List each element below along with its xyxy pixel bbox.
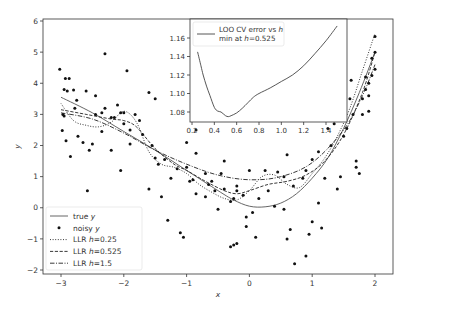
data-point (63, 88, 66, 91)
data-point (65, 139, 68, 142)
x-tick-label: −3 (55, 279, 66, 288)
y-tick-label: 1 (33, 172, 38, 181)
data-point (151, 144, 154, 147)
y-tick-label: 0 (33, 203, 38, 212)
data-point (323, 177, 326, 180)
inset-legend-line1: LOO CV error vs h (219, 25, 284, 34)
data-point (286, 237, 289, 240)
data-point (374, 35, 377, 38)
data-point (195, 192, 198, 195)
data-point (345, 127, 348, 130)
data-point (154, 156, 157, 159)
data-point (242, 194, 245, 197)
data-point (119, 111, 122, 114)
data-point (154, 97, 157, 100)
data-point (75, 99, 78, 102)
data-point (293, 262, 296, 265)
data-point (179, 231, 182, 234)
data-point (129, 128, 132, 131)
data-point (276, 170, 279, 173)
data-point (86, 189, 89, 192)
data-point (94, 113, 97, 116)
data-point (138, 119, 141, 122)
data-point (68, 77, 71, 80)
data-point (245, 225, 248, 228)
inset-x-tick-label: 0.6 (231, 127, 243, 135)
data-point (94, 94, 97, 97)
data-point (185, 166, 188, 169)
inset-legend: LOO CV error vs hmin at h=0.525 (193, 22, 284, 46)
data-point (169, 177, 172, 180)
data-point (176, 167, 179, 170)
inset-y-tick-label: 1.10 (169, 90, 185, 98)
y-tick-label: −2 (27, 266, 38, 275)
data-point (304, 254, 307, 257)
x-tick-label: −1 (181, 279, 192, 288)
data-point (61, 129, 64, 132)
data-point (301, 177, 304, 180)
data-point (188, 180, 191, 183)
data-point (317, 202, 320, 205)
data-point (210, 180, 213, 183)
data-point (122, 111, 125, 114)
data-point (100, 111, 103, 114)
data-point (364, 76, 367, 79)
inset-y-tick-label: 1.08 (169, 109, 185, 117)
data-point (217, 208, 220, 211)
inset-x-tick-label: 1.0 (276, 127, 287, 135)
data-point (195, 152, 198, 155)
data-point (355, 166, 358, 169)
legend-entry: LLR h=0.25 (73, 235, 117, 244)
x-tick-label: 0 (247, 279, 252, 288)
main-legend: true ynoisy yLLR h=0.25LLR h=0.525LLR h=… (46, 207, 142, 270)
inset-axes: 0.20.40.60.81.01.21.41.081.101.121.141.1… (169, 19, 347, 135)
data-point (85, 90, 88, 93)
data-point (125, 69, 128, 72)
data-point (129, 142, 132, 145)
figure: −3−2−1012−2−10123456xytrue ynoisy yLLR h… (0, 0, 450, 310)
inset-x-tick-label: 1.2 (298, 127, 309, 135)
inset-x-tick-label: 0.2 (186, 127, 197, 135)
y-tick-label: 3 (33, 110, 38, 119)
data-point (267, 189, 270, 192)
data-point (213, 189, 216, 192)
data-point (282, 208, 285, 211)
data-point (58, 68, 61, 71)
data-point (235, 242, 238, 245)
data-point (367, 82, 370, 85)
data-point (81, 141, 84, 144)
inset-y-tick-label: 1.12 (169, 72, 185, 80)
data-point (100, 130, 103, 133)
data-point (182, 236, 185, 239)
data-point (163, 158, 166, 161)
data-point (311, 158, 314, 161)
data-point (374, 68, 377, 71)
data-point (141, 133, 144, 136)
data-point (374, 51, 377, 54)
data-point (286, 153, 289, 156)
data-point (317, 150, 320, 153)
data-point (119, 169, 122, 172)
data-point (264, 169, 267, 172)
data-point (73, 107, 76, 110)
data-point (232, 244, 235, 247)
data-point (220, 172, 223, 175)
data-point (204, 195, 207, 198)
data-point (311, 220, 314, 223)
data-point (308, 233, 311, 236)
data-point (110, 116, 113, 119)
y-tick-label: −1 (27, 235, 38, 244)
data-point (91, 142, 94, 145)
data-point (166, 219, 169, 222)
data-point (103, 107, 106, 110)
data-point (110, 149, 113, 152)
data-point (350, 79, 353, 82)
data-point (63, 114, 66, 117)
y-tick-label: 4 (33, 79, 38, 88)
data-point (160, 195, 163, 198)
data-point (282, 175, 285, 178)
legend-entry: noisy y (73, 224, 100, 233)
data-point (191, 178, 194, 181)
data-point (364, 88, 367, 91)
chart-svg: −3−2−1012−2−10123456xytrue ynoisy yLLR h… (0, 0, 450, 310)
